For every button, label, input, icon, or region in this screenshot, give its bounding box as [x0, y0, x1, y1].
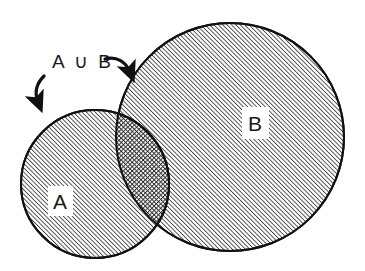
venn-diagram-figure: A B A ∪ B [0, 0, 365, 271]
set-a-label: A [53, 190, 67, 213]
venn-diagram-canvas: A B A ∪ B [0, 0, 365, 271]
union-annotation-label: A ∪ B [52, 51, 113, 72]
set-b-label: B [248, 112, 262, 135]
arrow-to-set-a-icon [36, 76, 44, 102]
